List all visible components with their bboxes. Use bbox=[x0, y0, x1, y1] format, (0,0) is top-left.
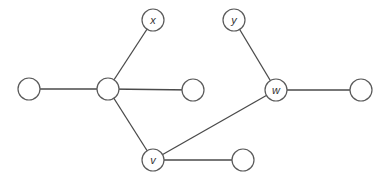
node-circle bbox=[18, 78, 40, 100]
node-right bbox=[350, 79, 372, 101]
node-y: y bbox=[223, 9, 245, 31]
node-label: x bbox=[149, 14, 156, 26]
node-x: x bbox=[142, 9, 164, 31]
edge-hub-mid bbox=[108, 89, 193, 90]
node-circle bbox=[350, 79, 372, 101]
node-label: w bbox=[272, 84, 281, 96]
node-mid bbox=[182, 79, 204, 101]
node-circle bbox=[232, 149, 254, 171]
edge-v-w bbox=[153, 90, 276, 160]
graph-svg: xvyw bbox=[0, 0, 386, 180]
edge-y-w bbox=[234, 20, 276, 90]
node-left bbox=[18, 78, 40, 100]
graph-diagram: xvyw bbox=[0, 0, 386, 180]
node-bottom-right bbox=[232, 149, 254, 171]
edge-hub-v bbox=[108, 89, 153, 160]
node-w: w bbox=[265, 79, 287, 101]
node-hub bbox=[97, 78, 119, 100]
edge-hub-x bbox=[108, 20, 153, 89]
node-circle bbox=[97, 78, 119, 100]
node-v: v bbox=[142, 149, 164, 171]
node-circle bbox=[182, 79, 204, 101]
